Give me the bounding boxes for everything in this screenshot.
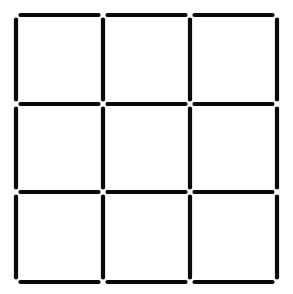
- sticks-group: [16, 15, 277, 282]
- matchstick-grid: [0, 0, 293, 294]
